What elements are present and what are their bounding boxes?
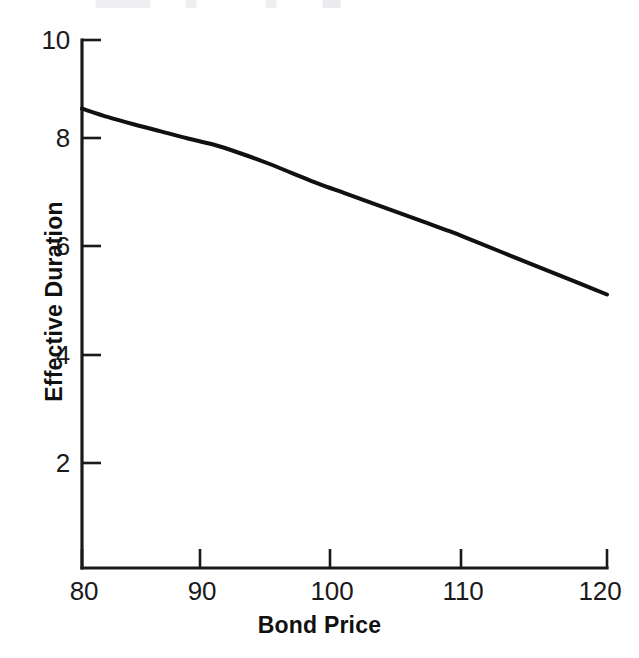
duration-curve xyxy=(82,109,607,295)
x-tick-label-110: 110 xyxy=(443,578,484,604)
y-tick-label-10: 10 xyxy=(18,27,70,53)
x-tick-label-80: 80 xyxy=(70,578,99,604)
plot-area xyxy=(0,0,639,658)
x-axis-ticks xyxy=(82,549,607,568)
x-tick-label-90: 90 xyxy=(188,578,217,604)
x-tick-label-120: 120 xyxy=(579,578,622,604)
y-axis-title: Effective Duration xyxy=(41,102,68,502)
effective-duration-chart: 10 8 6 4 2 80 90 100 110 120 Bond Price … xyxy=(0,0,639,658)
x-axis-title: Bond Price xyxy=(0,612,639,639)
y-axis-ticks xyxy=(82,40,101,463)
x-tick-label-100: 100 xyxy=(311,578,354,604)
chart-page: 10 8 6 4 2 80 90 100 110 120 Bond Price … xyxy=(0,0,639,658)
